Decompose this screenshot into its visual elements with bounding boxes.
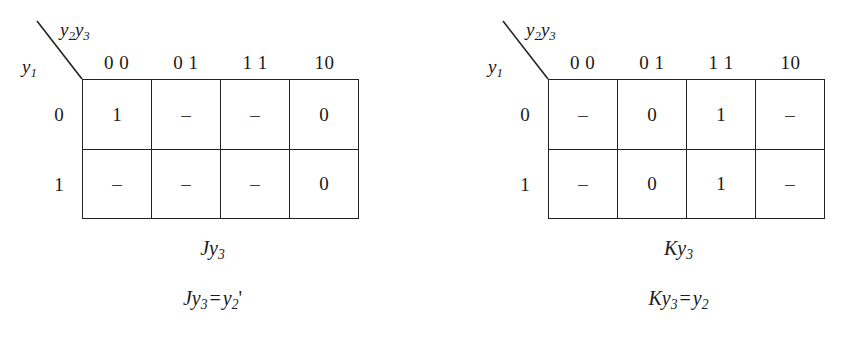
- kmap-grid-left: 1 – – 0 – – – 0: [82, 79, 359, 219]
- kmap-title-right: Ky3: [466, 238, 851, 258]
- column-header: 1 1: [221, 53, 290, 72]
- kmap-cell: 1: [687, 150, 756, 219]
- kmap-cell: –: [756, 80, 824, 149]
- kmap-figure-page: { "figure": { "background_color": "#ffff…: [0, 0, 851, 343]
- row-headers-right: 0 1: [510, 79, 540, 219]
- column-header: 0 1: [617, 53, 686, 72]
- kmap-equation-right: Ky3=y2: [466, 288, 851, 308]
- kmap-cell: –: [549, 150, 618, 219]
- kmap-cell: –: [221, 150, 290, 219]
- kmap-grid-right: – 0 1 – – 0 1 –: [548, 79, 825, 219]
- kmap-cell: 0: [618, 150, 687, 219]
- kmap-cell: –: [756, 150, 824, 219]
- kmap-title-left: Jy3: [0, 238, 425, 258]
- kmap-cell: –: [152, 150, 221, 219]
- column-headers-left: 0 0 0 1 1 1 10: [82, 53, 359, 72]
- column-header: 0 1: [151, 53, 220, 72]
- row-header: 1: [44, 149, 74, 219]
- kmap-cell: 1: [83, 80, 152, 149]
- equals-sign: =: [678, 287, 693, 309]
- kmap-corner-header-left: y2y3 y1: [18, 12, 88, 82]
- column-headers-right: 0 0 0 1 1 1 10: [548, 53, 825, 72]
- row-variable-label-left: y1: [22, 57, 37, 76]
- kmap-cell: 0: [618, 80, 687, 149]
- row-header: 0: [510, 79, 540, 149]
- column-header: 0 0: [82, 53, 151, 72]
- kmap-cell: 0: [290, 150, 358, 219]
- column-variable-label-left: y2y3: [60, 20, 90, 39]
- kmap-cell: 1: [687, 80, 756, 149]
- prime-mark: ': [238, 287, 242, 309]
- row-headers-left: 0 1: [44, 79, 74, 219]
- kmap-cell: –: [83, 150, 152, 219]
- row-header: 0: [44, 79, 74, 149]
- column-header: 10: [756, 53, 825, 72]
- row-header: 1: [510, 149, 540, 219]
- kmap-cell: –: [549, 80, 618, 149]
- equals-sign: =: [208, 287, 223, 309]
- column-header: 0 0: [548, 53, 617, 72]
- kmap-cell: –: [152, 80, 221, 149]
- row-variable-label-right: y1: [488, 57, 503, 76]
- column-header: 1 1: [687, 53, 756, 72]
- kmap-row: – – – 0: [83, 150, 358, 219]
- column-header: 10: [290, 53, 359, 72]
- kmap-row: – 0 1 –: [549, 150, 824, 219]
- karnaugh-map-jy3: y2y3 y1 0 0 0 1 1 1 10 0 1 1 – – 0 – – –…: [0, 0, 425, 343]
- karnaugh-map-ky3: y2y3 y1 0 0 0 1 1 1 10 0 1 – 0 1 – – 0 1…: [466, 0, 851, 343]
- kmap-row: – 0 1 –: [549, 80, 824, 150]
- kmap-row: 1 – – 0: [83, 80, 358, 150]
- column-variable-label-right: y2y3: [526, 20, 556, 39]
- kmap-corner-header-right: y2y3 y1: [484, 12, 554, 82]
- kmap-equation-left: Jy3=y2': [0, 288, 425, 308]
- kmap-cell: 0: [290, 80, 358, 149]
- kmap-cell: –: [221, 80, 290, 149]
